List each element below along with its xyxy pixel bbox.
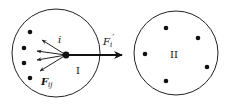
particle-dot xyxy=(28,76,33,81)
particle-dot xyxy=(196,36,201,41)
particle-dot xyxy=(205,65,210,70)
particle-dot xyxy=(22,46,27,51)
two-particle-systems-diagram: i I Fij Fi′ II xyxy=(0,0,236,105)
internal-force-arrow xyxy=(37,51,66,55)
internal-force-arrows xyxy=(37,40,66,71)
internal-force-label: Fij xyxy=(40,76,53,89)
particle-i-label: i xyxy=(58,34,61,45)
external-force-label-prime: ′ xyxy=(112,33,114,43)
external-force-label: Fi′ xyxy=(102,33,114,49)
internal-force-label-sub: ij xyxy=(48,81,53,89)
system-I-label: I xyxy=(76,65,80,76)
particle-dot xyxy=(164,26,169,31)
particle-dot xyxy=(164,79,169,84)
internal-force-arrow xyxy=(42,40,66,55)
system-I-boundary xyxy=(12,9,100,97)
system-I-particles xyxy=(22,30,33,81)
particle-dot xyxy=(22,61,27,66)
system-II-label: II xyxy=(170,49,178,60)
particle-dot xyxy=(143,52,148,57)
system-I: i I Fij Fi′ xyxy=(12,9,122,97)
system-II: II xyxy=(134,11,218,95)
particle-dot xyxy=(28,30,33,35)
focus-particle-i xyxy=(63,52,70,59)
